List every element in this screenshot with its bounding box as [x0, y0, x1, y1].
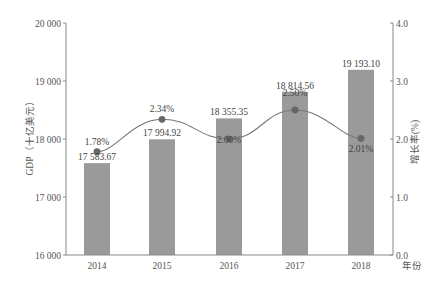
gdp-bar: [84, 163, 110, 255]
y-axis-right-title: 增长率(%): [409, 120, 421, 164]
x-tick-label: 2014: [88, 261, 107, 271]
y-tick-left-label: 20 000: [35, 19, 61, 29]
x-tick-label: 2018: [352, 261, 371, 271]
y-tick-right-label: 4.0: [396, 19, 408, 29]
y-tick-left-label: 16 000: [35, 251, 61, 261]
growth-rate-marker: [159, 116, 166, 123]
y-tick-left-label: 19 000: [35, 77, 61, 87]
y-tick-left-label: 17 000: [35, 193, 61, 203]
y-tick-right-label: 2.0: [396, 135, 408, 145]
gdp-bar: [348, 70, 374, 255]
gdp-bar: [149, 139, 175, 255]
gdp-value-label: 17 994.92: [143, 128, 181, 138]
growth-rate-label: 2.50%: [283, 88, 308, 98]
gdp-value-label: 17 583.67: [78, 152, 116, 162]
growth-rate-label: 2.00%: [217, 135, 242, 145]
y-axis-left-title: GDP（十亿美元）: [24, 96, 35, 175]
gdp-value-label: 18 355.35: [210, 107, 248, 117]
gdp-growth-chart: 16 00017 00018 00019 00020 0000.01.02.03…: [0, 0, 442, 287]
y-tick-right-label: 3.0: [396, 77, 408, 87]
growth-rate-label: 2.01%: [349, 144, 374, 154]
x-axis-title: 年份: [402, 260, 422, 271]
growth-rate-label: 1.78%: [85, 137, 110, 147]
x-tick-label: 2017: [286, 261, 305, 271]
growth-rate-label: 2.34%: [150, 104, 175, 114]
gdp-bars: [84, 70, 374, 255]
y-tick-right-label: 0.0: [396, 251, 408, 261]
x-tick-label: 2016: [220, 261, 239, 271]
x-tick-label: 2015: [153, 261, 172, 271]
gdp-value-label: 19 193.10: [342, 59, 380, 69]
y-tick-left-label: 18 000: [35, 135, 61, 145]
y-tick-right-label: 1.0: [396, 193, 408, 203]
growth-rate-marker: [292, 107, 299, 114]
gdp-bar: [282, 92, 308, 255]
growth-rate-marker: [358, 135, 365, 142]
